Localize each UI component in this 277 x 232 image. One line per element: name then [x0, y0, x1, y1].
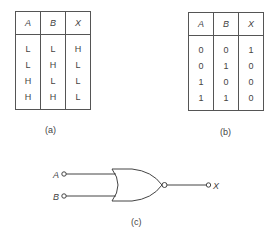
input-b-label: B	[53, 192, 59, 202]
input-a-terminal	[62, 172, 66, 176]
nor-gate-diagram: A B X (c)	[0, 0, 277, 232]
nor-gate-body	[112, 169, 162, 201]
output-x-label: X	[212, 181, 220, 191]
input-a-label: A	[52, 170, 59, 180]
caption-c: (c)	[131, 217, 142, 227]
inversion-bubble	[162, 183, 167, 188]
output-x-terminal	[206, 183, 210, 187]
input-b-terminal	[62, 194, 66, 198]
